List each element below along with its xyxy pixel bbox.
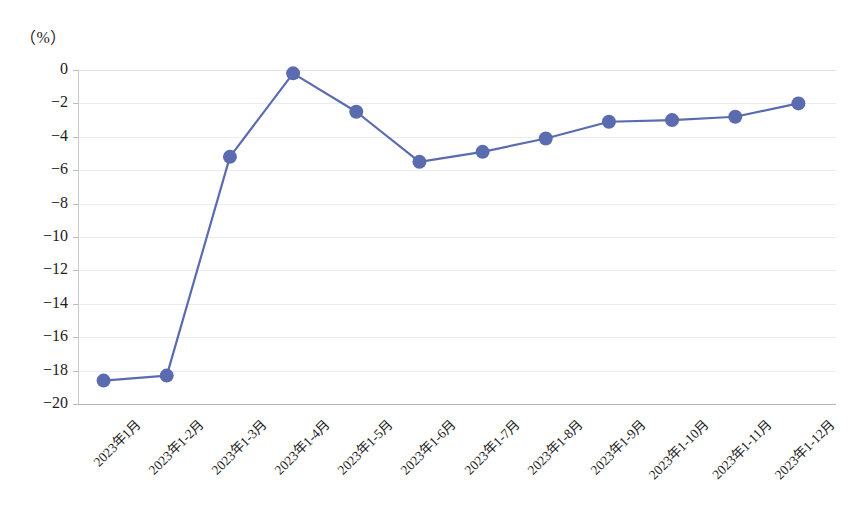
data-point-marker [286, 66, 300, 80]
data-point-marker [728, 110, 742, 124]
data-point-marker [539, 131, 553, 145]
series-markers-group [97, 66, 806, 387]
data-point-marker [412, 155, 426, 169]
data-point-marker [223, 150, 237, 164]
data-point-marker [476, 145, 490, 159]
line-chart: （%） 0−2−4−6−8−10−12−14−16−18−20 2023年1月2… [0, 0, 853, 529]
data-point-marker [602, 115, 616, 129]
data-point-marker [791, 96, 805, 110]
series-line [104, 73, 799, 380]
data-point-marker [349, 105, 363, 119]
data-point-marker [665, 113, 679, 127]
data-point-marker [97, 374, 111, 388]
data-point-marker [160, 369, 174, 383]
